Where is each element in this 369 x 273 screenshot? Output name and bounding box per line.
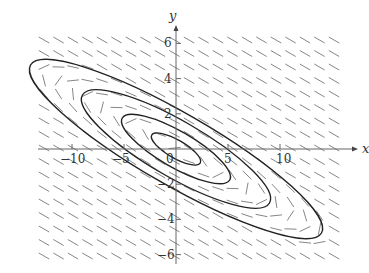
field-arrow-icon	[314, 118, 324, 124]
x-tick-label: −5	[112, 152, 130, 166]
field-arrow-icon	[39, 105, 49, 111]
phase-portrait-chart: x y −10−50510 −6−4−2246	[0, 0, 369, 273]
field-arrow-icon	[55, 76, 62, 86]
field-arrow-icon	[68, 51, 78, 57]
field-arrow-icon	[256, 199, 267, 204]
field-arrow-icon	[82, 79, 94, 81]
field-arrow-icon	[198, 173, 209, 177]
field-arrow-icon	[126, 199, 136, 205]
field-arrow-icon	[300, 78, 310, 84]
field-arrow-icon	[67, 66, 79, 69]
field-arrow-icon	[285, 240, 295, 246]
field-arrow-icon	[169, 64, 179, 70]
field-arrow-icon	[198, 37, 208, 43]
field-arrow-icon	[40, 89, 48, 98]
field-arrow-icon	[314, 51, 324, 57]
field-arrow-icon	[126, 172, 136, 178]
field-arrow-icon	[256, 145, 266, 151]
field-arrow-icon	[271, 64, 281, 70]
field-arrow-icon	[227, 91, 237, 97]
field-arrow-icon	[111, 253, 121, 259]
field-arrow-icon	[39, 51, 49, 57]
x-tick-label: 0	[166, 152, 174, 166]
field-arrow-icon	[285, 172, 295, 178]
field-arrow-icon	[39, 37, 49, 43]
x-tick-label: −10	[60, 152, 85, 166]
field-arrow-icon	[314, 253, 324, 259]
field-arrow-icon	[101, 102, 104, 114]
field-arrow-icon	[140, 37, 150, 43]
field-arrow-icon	[126, 64, 136, 70]
field-arrow-icon	[198, 240, 208, 246]
field-arrow-icon	[303, 210, 306, 222]
field-arrow-icon	[329, 199, 339, 205]
field-arrow-icon	[126, 226, 136, 232]
field-arrow-icon	[198, 213, 208, 219]
field-arrow-icon	[82, 226, 92, 232]
field-arrow-icon	[53, 51, 63, 57]
field-arrow-icon	[97, 37, 107, 43]
field-arrow-icon	[155, 51, 165, 57]
field-arrow-icon	[184, 78, 194, 84]
field-arrow-icon	[256, 214, 268, 216]
field-arrow-icon	[97, 240, 107, 246]
field-arrow-icon	[198, 253, 208, 259]
field-arrow-icon	[97, 51, 107, 57]
field-arrow-icon	[39, 145, 49, 151]
field-arrow-icon	[314, 159, 324, 165]
field-arrow-icon	[213, 240, 223, 246]
field-arrow-icon	[68, 117, 77, 125]
field-arrow-icon	[53, 240, 63, 246]
field-arrow-icon	[198, 186, 209, 191]
field-arrow-icon	[184, 213, 194, 219]
field-arrow-icon	[140, 199, 150, 205]
field-arrow-icon	[329, 132, 339, 138]
field-arrow-icon	[299, 242, 311, 243]
field-arrow-icon	[300, 226, 311, 231]
field-arrow-icon	[97, 253, 107, 259]
field-arrow-icon	[143, 129, 149, 139]
field-arrow-icon	[271, 37, 281, 43]
field-arrow-icon	[169, 199, 179, 205]
field-arrow-icon	[198, 91, 208, 97]
field-arrow-icon	[68, 240, 78, 246]
field-arrow-icon	[39, 132, 49, 138]
field-arrow-icon	[169, 147, 181, 148]
field-arrow-icon	[256, 37, 266, 43]
field-arrow-icon	[256, 78, 266, 84]
field-arrow-icon	[329, 240, 339, 246]
field-arrow-icon	[227, 51, 237, 57]
field-arrow-icon	[212, 187, 223, 191]
field-arrow-icon	[43, 75, 46, 87]
field-arrow-icon	[314, 37, 324, 43]
field-arrow-icon	[271, 240, 281, 246]
field-arrow-icon	[242, 105, 252, 111]
field-arrow-icon	[300, 91, 310, 97]
field-arrow-icon	[314, 186, 324, 192]
field-arrow-icon	[242, 240, 252, 246]
field-arrow-icon	[329, 64, 339, 70]
field-arrow-icon	[82, 145, 92, 151]
field-arrow-icon	[184, 240, 194, 246]
field-arrow-icon	[227, 64, 237, 70]
field-arrow-icon	[300, 118, 310, 124]
field-arrow-icon	[271, 105, 281, 111]
field-arrow-icon	[227, 253, 237, 259]
field-arrow-icon	[97, 159, 107, 165]
field-arrow-icon	[97, 64, 107, 70]
field-arrow-icon	[242, 132, 252, 138]
field-arrow-icon	[227, 37, 237, 43]
field-arrow-icon	[111, 37, 121, 43]
field-arrow-icon	[169, 91, 179, 97]
field-arrow-icon	[300, 37, 310, 43]
field-arrow-icon	[285, 105, 295, 111]
field-arrow-icon	[285, 64, 295, 70]
field-arrow-icon	[329, 91, 339, 97]
field-arrow-icon	[213, 118, 223, 124]
field-arrow-icon	[53, 253, 63, 259]
field-arrow-icon	[242, 253, 252, 259]
field-arrow-icon	[140, 119, 151, 123]
y-tick-label: 2	[164, 107, 172, 121]
field-arrow-icon	[227, 118, 237, 124]
field-arrow-icon	[314, 105, 324, 111]
